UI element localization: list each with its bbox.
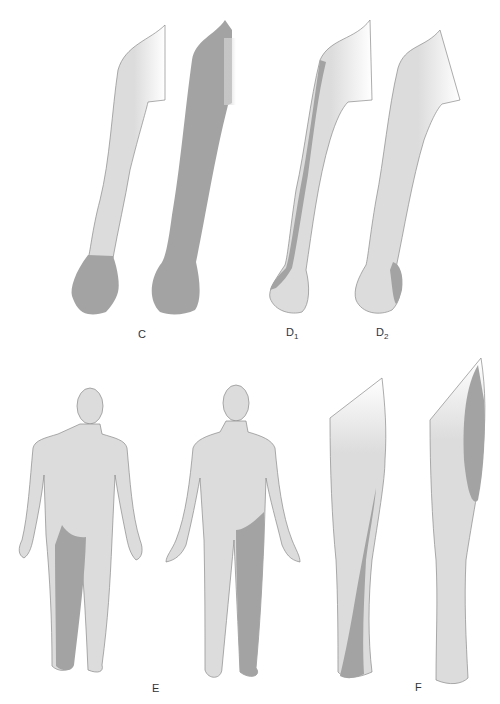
panel-label-e: E bbox=[152, 682, 159, 694]
shaded-leg-anterior bbox=[236, 512, 264, 676]
body-posterior bbox=[19, 388, 142, 672]
leg-f2 bbox=[430, 358, 485, 684]
arm-d1 bbox=[270, 20, 372, 313]
shaded-leg-posterior bbox=[55, 525, 86, 670]
panel-label-f: F bbox=[415, 681, 422, 693]
dermatome-figure bbox=[0, 0, 500, 704]
panel-label-c: C bbox=[138, 328, 146, 340]
shaded-hand bbox=[72, 255, 119, 314]
body-anterior bbox=[166, 385, 300, 677]
panel-label-d1: D1 bbox=[286, 326, 298, 341]
leg-f1 bbox=[330, 378, 386, 678]
panel-label-d2: D2 bbox=[376, 326, 388, 341]
arm-c1 bbox=[72, 25, 165, 314]
